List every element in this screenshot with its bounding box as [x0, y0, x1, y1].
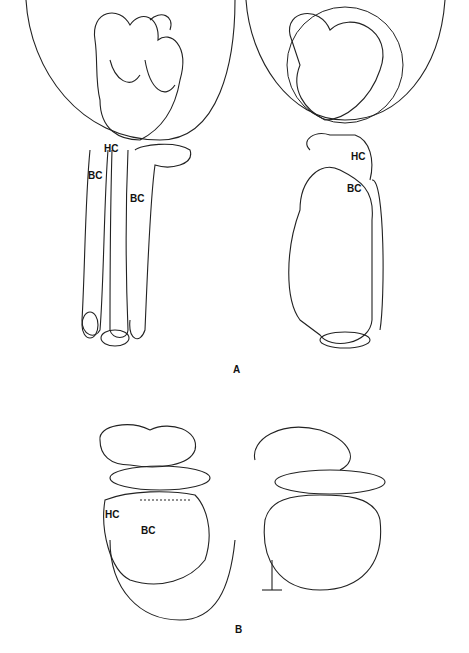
label-bc: BC — [141, 525, 155, 536]
b-left-bowl-outline — [110, 540, 235, 620]
a-left-tube-3 — [130, 144, 191, 338]
label-bc: BC — [347, 183, 361, 194]
panel-label-b: B — [235, 624, 242, 635]
label-hc: HC — [104, 143, 118, 154]
label-bc: BC — [130, 193, 144, 204]
b-left-upper-loop — [100, 425, 196, 467]
anatomical-illustration — [0, 0, 469, 653]
a-right-bowl-outline — [246, 0, 445, 120]
a-right-upper-loops — [290, 14, 383, 120]
b-right-upper — [254, 427, 350, 470]
panel-label-a: A — [233, 364, 240, 375]
label-bc: BC — [88, 170, 102, 181]
a-left-bowl-outline — [26, 0, 235, 140]
b-right-body — [264, 495, 380, 590]
b-left-body — [104, 492, 209, 584]
a-left-tube-2 — [110, 150, 128, 338]
label-hc: HC — [105, 509, 119, 520]
label-hc: HC — [351, 151, 365, 162]
